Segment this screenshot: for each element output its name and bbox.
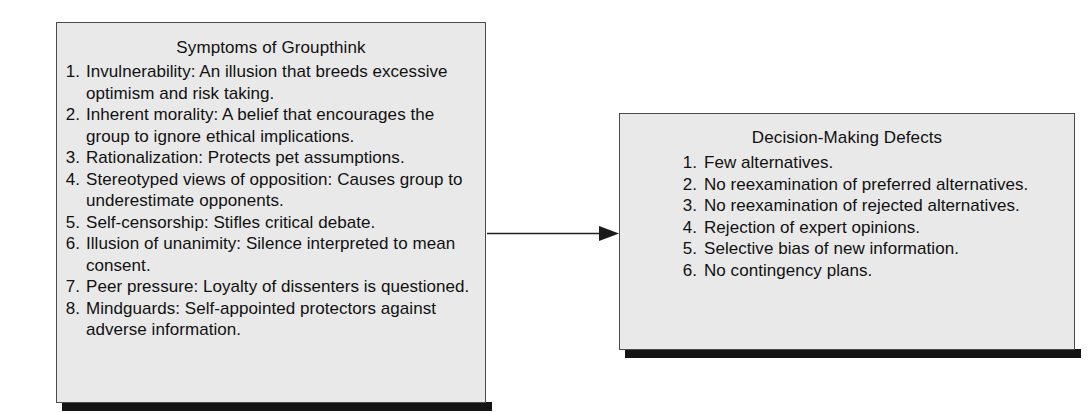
list-item: 4. Rejection of expert opinions.	[677, 217, 1064, 239]
flow-arrow-icon	[487, 222, 621, 246]
list-item-text: Inherent morality: A belief that encoura…	[86, 104, 475, 147]
list-item-number: 2.	[677, 174, 697, 196]
list-item-number: 1.	[677, 152, 697, 174]
list-item-text: Selective bias of new information.	[704, 238, 1064, 260]
symptoms-panel: Symptoms of Groupthink 1. Invulnerabilit…	[56, 22, 486, 403]
list-item: 3. No reexamination of rejected alternat…	[677, 195, 1064, 217]
list-item-text: Self-censorship: Stifles critical debate…	[86, 212, 475, 234]
list-item-text: Invulnerability: An illusion that breeds…	[86, 61, 475, 104]
list-item: 3. Rationalization: Protects pet assumpt…	[57, 147, 475, 169]
list-item: 6. No contingency plans.	[677, 260, 1064, 282]
list-item-number: 3.	[57, 147, 80, 169]
list-item: 2. No reexamination of preferred alterna…	[677, 174, 1064, 196]
list-item: 6. Illusion of unanimity: Silence interp…	[57, 233, 475, 276]
defects-list: 1. Few alternatives. 2. No reexamination…	[620, 152, 1074, 281]
list-item-number: 4.	[677, 217, 697, 239]
list-item-number: 2.	[57, 104, 80, 126]
list-item-text: Mindguards: Self-appointed protectors ag…	[86, 298, 475, 341]
list-item: 5. Selective bias of new information.	[677, 238, 1064, 260]
list-item-number: 1.	[57, 61, 80, 83]
defects-panel-shadow	[625, 349, 1081, 358]
list-item: 1. Few alternatives.	[677, 152, 1064, 174]
list-item-number: 4.	[57, 169, 80, 191]
symptoms-panel-title: Symptoms of Groupthink	[57, 37, 485, 58]
list-item-text: No reexamination of rejected alternative…	[704, 195, 1064, 217]
list-item: 5. Self-censorship: Stifles critical deb…	[57, 212, 475, 234]
list-item-number: 7.	[57, 276, 80, 298]
list-item-text: Peer pressure: Loyalty of dissenters is …	[86, 276, 475, 298]
list-item: 8. Mindguards: Self-appointed protectors…	[57, 298, 475, 341]
list-item: 1. Invulnerability: An illusion that bre…	[57, 61, 475, 104]
list-item-number: 5.	[57, 212, 80, 234]
list-item: 7. Peer pressure: Loyalty of dissenters …	[57, 276, 475, 298]
list-item-number: 6.	[677, 260, 697, 282]
list-item-text: No reexamination of preferred alternativ…	[704, 174, 1064, 196]
defects-panel-title: Decision-Making Defects	[620, 127, 1074, 148]
list-item-number: 6.	[57, 233, 80, 255]
list-item-text: Few alternatives.	[704, 152, 1064, 174]
list-item-text: Rationalization: Protects pet assumption…	[86, 147, 475, 169]
diagram-canvas: Symptoms of Groupthink 1. Invulnerabilit…	[0, 0, 1091, 413]
list-item-text: Illusion of unanimity: Silence interpret…	[86, 233, 475, 276]
symptoms-panel-shadow	[62, 402, 492, 411]
list-item-text: No contingency plans.	[704, 260, 1064, 282]
list-item-number: 3.	[677, 195, 697, 217]
list-item-number: 5.	[677, 238, 697, 260]
defects-panel: Decision-Making Defects 1. Few alternati…	[619, 113, 1075, 350]
list-item: 2. Inherent morality: A belief that enco…	[57, 104, 475, 147]
list-item-text: Rejection of expert opinions.	[704, 217, 1064, 239]
list-item: 4. Stereotyped views of opposition: Caus…	[57, 169, 475, 212]
list-item-text: Stereotyped views of opposition: Causes …	[86, 169, 475, 212]
list-item-number: 8.	[57, 298, 80, 320]
symptoms-list: 1. Invulnerability: An illusion that bre…	[57, 61, 485, 341]
